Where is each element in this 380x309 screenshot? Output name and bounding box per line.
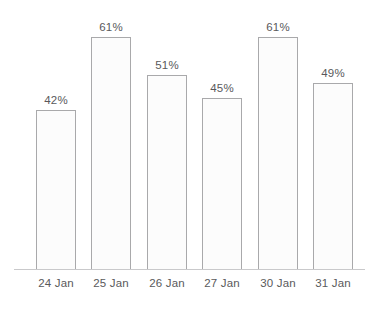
category-axis: 24 Jan 25 Jan 26 Jan 27 Jan 30 Jan 31 Ja… [0,276,380,296]
bar-group: 61% [91,0,131,270]
category-label: 25 Jan [93,276,129,290]
plot-area: 42% 61% 51% 45% 61% 49% [0,0,380,270]
bar-value-label: 51% [155,59,179,72]
bar-group: 42% [36,0,76,270]
bar-value-label: 61% [99,21,123,34]
bar-chart: 42% 61% 51% 45% 61% 49% 24 Jan 25 Jan 26… [0,0,380,309]
bar-value-label: 42% [44,94,68,107]
bar-value-label: 61% [266,21,290,34]
bar-group: 51% [147,0,187,270]
category-label: 31 Jan [315,276,351,290]
bar[interactable] [258,37,298,270]
bar[interactable] [313,83,353,270]
bar[interactable] [147,75,187,270]
category-label: 26 Jan [149,276,185,290]
bar-value-label: 45% [210,82,234,95]
bar[interactable] [91,37,131,270]
bar-value-label: 49% [321,67,345,80]
bar[interactable] [202,98,242,270]
bar-group: 45% [202,0,242,270]
axis-baseline [14,269,365,270]
bar[interactable] [36,110,76,270]
category-label: 27 Jan [204,276,240,290]
category-label: 24 Jan [38,276,74,290]
bar-group: 61% [258,0,298,270]
category-label: 30 Jan [260,276,296,290]
bar-group: 49% [313,0,353,270]
